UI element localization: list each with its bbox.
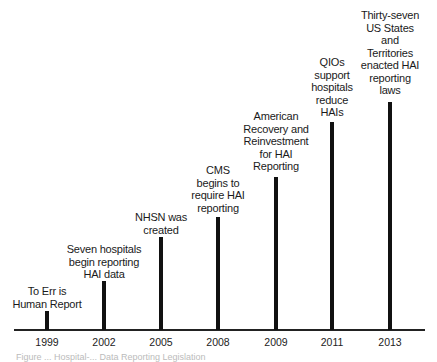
- event-bar-2005: [159, 237, 163, 330]
- event-bar-1999: [45, 311, 49, 330]
- event-bar-2002: [102, 281, 106, 330]
- event-bar-2008: [216, 217, 220, 330]
- event-label-1999: To Err is Human Report: [0, 285, 102, 310]
- year-label-2009: 2009: [256, 336, 296, 348]
- year-label-2005: 2005: [141, 336, 181, 348]
- figure-caption: Figure ... Hospital-... Data Reporting L…: [16, 352, 206, 362]
- year-label-2011: 2011: [312, 336, 352, 348]
- event-label-2002: Seven hospitals begin reporting HAI data: [49, 243, 159, 281]
- year-label-2002: 2002: [84, 336, 124, 348]
- event-bar-2013: [388, 102, 392, 330]
- year-label-2008: 2008: [198, 336, 238, 348]
- event-bar-2009: [274, 177, 278, 330]
- year-label-1999: 1999: [27, 336, 67, 348]
- event-label-2005: NHSN was created: [106, 211, 216, 236]
- year-label-2013: 2013: [370, 336, 410, 348]
- event-label-2013: Thirty-seven US States and Territories e…: [335, 9, 437, 97]
- event-label-2009: American Recovery and Reinvestment for H…: [221, 110, 331, 173]
